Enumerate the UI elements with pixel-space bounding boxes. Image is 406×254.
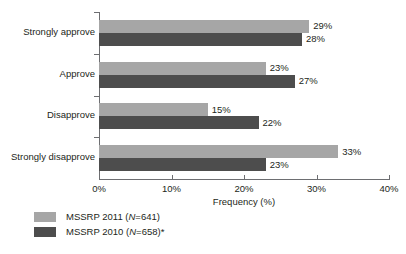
- bar: [99, 158, 266, 171]
- category-label: Strongly approve: [0, 27, 95, 37]
- bar-value-label: 22%: [259, 118, 282, 128]
- bar: [99, 20, 309, 33]
- legend-swatch: [34, 227, 56, 237]
- bar: [99, 62, 266, 75]
- bar-chart: Strongly approveApproveDisapproveStrongl…: [0, 0, 406, 254]
- bar-value-label: 33%: [338, 147, 361, 157]
- bar: [99, 116, 259, 129]
- legend-item: MSSRP 2011 (N=641): [34, 209, 164, 224]
- category-label: Disapprove: [0, 110, 95, 120]
- legend-label: MSSRP 2011 (N=641): [66, 211, 160, 222]
- bar-value-label: 28%: [302, 35, 325, 45]
- bar: [99, 75, 295, 88]
- bar: [99, 33, 302, 46]
- legend-item: MSSRP 2010 (N=658)*: [34, 224, 164, 239]
- x-axis-tick-label: 0%: [79, 183, 119, 194]
- bar: [99, 103, 208, 116]
- x-axis-tick: [389, 175, 390, 180]
- bar-value-label: 23%: [266, 160, 289, 170]
- bar: [99, 145, 338, 158]
- category-label: Strongly disapprove: [0, 152, 95, 162]
- bar-value-label: 23%: [266, 63, 289, 73]
- plot-area: 29%28%23%27%15%22%33%23%: [99, 12, 389, 179]
- x-axis-tick-label: 40%: [369, 183, 406, 194]
- category-label: Approve: [0, 69, 95, 79]
- x-axis-title: Frequency (%): [99, 196, 389, 207]
- x-axis-tick-label: 20%: [224, 183, 264, 194]
- legend-swatch: [34, 212, 56, 222]
- legend-label: MSSRP 2010 (N=658)*: [66, 226, 164, 237]
- bar-value-label: 15%: [208, 105, 231, 115]
- bar-value-label: 29%: [309, 22, 332, 32]
- bar-value-label: 27%: [295, 76, 318, 86]
- x-axis-tick-label: 10%: [152, 183, 192, 194]
- chart-legend: MSSRP 2011 (N=641)MSSRP 2010 (N=658)*: [34, 209, 164, 239]
- x-axis-tick-label: 30%: [297, 183, 337, 194]
